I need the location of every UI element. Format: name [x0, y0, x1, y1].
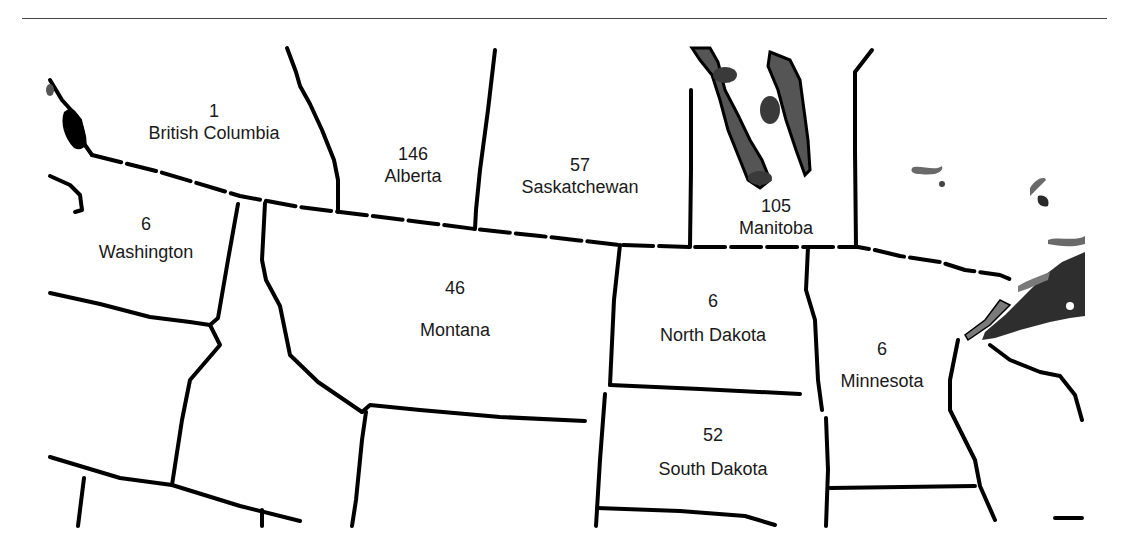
region-count: 57	[521, 154, 638, 176]
border-or-id	[172, 325, 220, 485]
region-count: 6	[840, 333, 923, 365]
region-name: North Dakota	[660, 318, 766, 352]
coast-islands	[46, 84, 86, 149]
region-count: 52	[658, 418, 767, 452]
region-name: Manitoba	[739, 217, 813, 239]
manitoba-lakes	[692, 48, 810, 188]
border-manitoba-ontario	[855, 50, 872, 247]
region-count: 46	[420, 267, 490, 309]
region-name: Montana	[420, 309, 490, 351]
region-name: South Dakota	[658, 452, 767, 486]
border-wi-mi	[990, 345, 1082, 420]
region-name: Saskatchewan	[521, 176, 638, 198]
region-count: 1	[148, 100, 279, 122]
region-label-british-columbia: 1 British Columbia	[148, 100, 279, 144]
border-sask-manitoba	[690, 90, 691, 247]
border-mt-wy	[362, 405, 585, 421]
border-nd-sd	[610, 385, 800, 394]
region-label-minnesota: 6 Minnesota	[840, 333, 923, 397]
region-name: British Columbia	[148, 122, 279, 144]
border-id-mt	[262, 203, 362, 412]
border-nd-mn	[806, 247, 822, 410]
region-name: Alberta	[384, 165, 441, 187]
region-label-alberta: 146 Alberta	[384, 143, 441, 187]
ontario-lakes	[911, 166, 1085, 246]
region-name: Washington	[99, 238, 193, 266]
region-label-saskatchewan: 57 Saskatchewan	[521, 154, 638, 198]
border-mt-nd	[610, 245, 620, 385]
region-count: 146	[384, 143, 441, 165]
region-label-manitoba: 105 Manitoba	[739, 195, 813, 239]
region-label-washington: 6 Washington	[99, 210, 193, 266]
region-name: Minnesota	[840, 365, 923, 397]
border-mn-wi	[950, 340, 995, 520]
lake-superior	[965, 252, 1085, 340]
region-label-south-dakota: 52 South Dakota	[658, 418, 767, 486]
border-wa-id	[210, 204, 238, 325]
region-count: 105	[739, 195, 813, 217]
border-or-ca	[78, 478, 84, 526]
border-sd-mn	[826, 418, 828, 526]
region-label-north-dakota: 6 North Dakota	[660, 284, 766, 352]
coast-wa	[50, 176, 82, 212]
region-label-montana: 46 Montana	[420, 267, 490, 351]
region-count: 6	[660, 284, 766, 318]
border-wy-id	[352, 412, 366, 526]
border-alberta-sask	[475, 50, 495, 229]
border-sd-ne	[597, 508, 775, 525]
border-wa-or	[50, 293, 210, 325]
border-mn-ia	[830, 486, 975, 488]
map-canvas	[0, 0, 1129, 556]
region-count: 6	[99, 210, 193, 238]
border-bc-alberta	[287, 48, 338, 212]
